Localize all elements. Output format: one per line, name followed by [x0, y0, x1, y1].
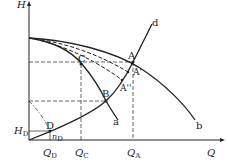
pump-characteristic-diagram: H Q d b a A A' A'' B C D HD nD QD QC QA — [0, 0, 228, 164]
curve-d-label: d — [152, 18, 158, 28]
y-axis-label: H — [17, 0, 26, 10]
tick-QC: QC — [75, 148, 89, 160]
curve-a-label: a — [113, 117, 119, 127]
tick-QA: QA — [127, 148, 140, 160]
x-axis-label: Q — [207, 148, 215, 158]
point-A-label: A — [128, 51, 135, 61]
point-C-label: C — [78, 54, 86, 64]
curve-b-label: b — [196, 121, 202, 131]
tick-HD: HD — [14, 126, 28, 138]
point-A-prime-label: A' — [133, 68, 142, 77]
curve-a — [29, 38, 118, 120]
point-B — [105, 100, 108, 103]
point-A-prime — [127, 71, 130, 74]
point-B-label: B — [102, 89, 109, 99]
diagram-canvas — [0, 0, 228, 164]
tick-QD: QD — [43, 148, 57, 160]
tick-nD: nD — [52, 133, 63, 143]
point-A-double-prime-label: A'' — [120, 84, 131, 93]
point-A-double-prime — [121, 79, 124, 82]
x-axis-arrow-icon — [220, 138, 225, 142]
point-D-label: D — [46, 121, 54, 131]
curve-b — [29, 38, 195, 120]
y-axis-arrow-icon — [27, 1, 31, 6]
